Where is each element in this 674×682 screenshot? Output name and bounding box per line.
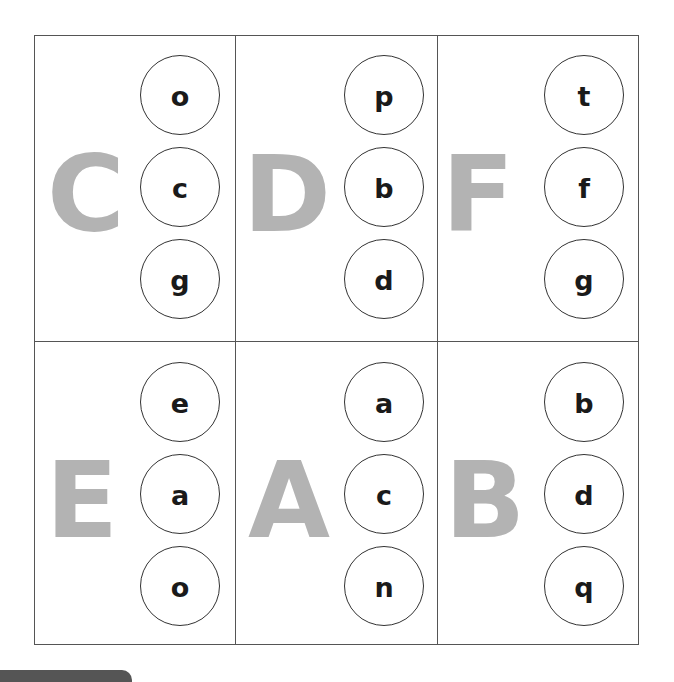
letter-choice-circle[interactable]: a	[344, 362, 424, 442]
letter-choice-circle[interactable]: o	[140, 55, 220, 135]
letter-choice-circle[interactable]: g	[140, 239, 220, 319]
big-letter: F	[433, 142, 523, 248]
letter-choice-circle[interactable]: p	[344, 55, 424, 135]
big-letter: C	[41, 142, 131, 248]
grid-divider-horizontal	[34, 341, 639, 342]
choice-label: o	[171, 572, 190, 603]
choice-label: d	[374, 265, 393, 296]
big-letter: B	[440, 448, 530, 554]
choice-label: g	[574, 265, 593, 296]
letter-choice-circle[interactable]: a	[140, 454, 220, 534]
letter-choice-circle[interactable]: d	[544, 454, 624, 534]
choice-label: o	[171, 81, 190, 112]
letter-choice-circle[interactable]: t	[544, 55, 624, 135]
letter-choice-circle[interactable]: e	[140, 362, 220, 442]
big-letter: D	[242, 142, 332, 248]
choice-label: d	[574, 480, 593, 511]
choice-label: a	[171, 480, 189, 511]
grid-divider-vertical-2	[437, 35, 438, 645]
choice-label: g	[170, 265, 189, 296]
choice-label: q	[574, 572, 593, 603]
grid-divider-vertical-1	[235, 35, 236, 645]
letter-choice-circle[interactable]: o	[140, 546, 220, 626]
choice-label: c	[376, 480, 392, 511]
choice-label: p	[374, 81, 393, 112]
letter-choice-circle[interactable]: c	[140, 147, 220, 227]
choice-label: a	[375, 388, 393, 419]
choice-label: e	[171, 388, 189, 419]
choice-label: c	[172, 173, 188, 204]
choice-label: t	[578, 81, 591, 112]
letter-choice-circle[interactable]: f	[544, 147, 624, 227]
footer-tab	[0, 670, 132, 682]
letter-choice-circle[interactable]: d	[344, 239, 424, 319]
letter-choice-circle[interactable]: n	[344, 546, 424, 626]
big-letter: A	[244, 448, 334, 554]
letter-choice-circle[interactable]: b	[544, 362, 624, 442]
choice-label: b	[574, 388, 593, 419]
letter-choice-circle[interactable]: c	[344, 454, 424, 534]
big-letter: E	[37, 448, 127, 554]
letter-choice-circle[interactable]: q	[544, 546, 624, 626]
choice-label: f	[578, 173, 590, 204]
choice-label: n	[374, 572, 393, 603]
letter-choice-circle[interactable]: b	[344, 147, 424, 227]
choice-label: b	[374, 173, 393, 204]
letter-choice-circle[interactable]: g	[544, 239, 624, 319]
